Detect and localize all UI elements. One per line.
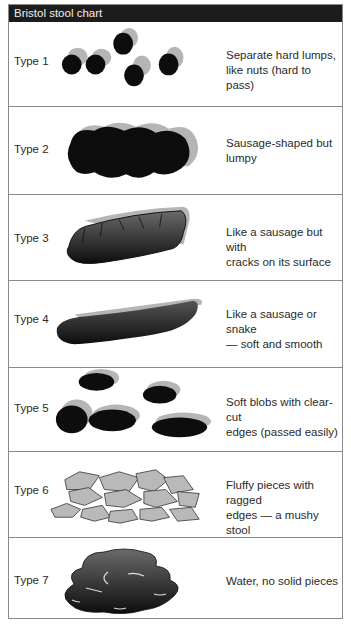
- description-line: Water, no solid pieces: [226, 574, 341, 589]
- description-line: edges (passed easily): [226, 425, 341, 440]
- description-line: Fluffy pieces with ragged: [226, 478, 341, 508]
- description-line: cracks on its surface: [226, 255, 341, 270]
- lumpy-sausage-illustration: [44, 107, 224, 194]
- watery-illustration: [44, 538, 224, 624]
- smooth-snake-illustration: [44, 281, 224, 367]
- chart-row-type-5: Type 5 Soft blobs with clear-cut edges (…: [9, 368, 342, 452]
- description-line: lumpy: [226, 151, 341, 166]
- description-line: Soft blobs with clear-cut: [226, 395, 341, 425]
- bristol-stool-chart: Bristol stool chart Type 1 Separate hard…: [8, 4, 343, 619]
- chart-row-type-1: Type 1 Separate hard lumps, like nuts (h…: [9, 22, 342, 107]
- row-description: Water, no solid pieces: [226, 574, 341, 589]
- description-line: Sausage-shaped but: [226, 136, 341, 151]
- cracked-sausage-illustration: [44, 195, 224, 280]
- description-line: edges — a mushy stool: [226, 508, 341, 538]
- chart-row-type-3: Type 3 Like a sausage but with cracks on…: [9, 195, 342, 281]
- chart-title: Bristol stool chart: [9, 5, 342, 22]
- row-description: Like a sausage but with cracks on its su…: [226, 225, 341, 270]
- chart-row-type-2: Type 2 Sausage-shaped but lumpy: [9, 107, 342, 195]
- chart-row-type-7: Type 7 Water, no solid pieces: [9, 538, 342, 624]
- description-line: Like a sausage or snake: [226, 307, 341, 337]
- row-description: Fluffy pieces with ragged edges — a mush…: [226, 478, 341, 538]
- separate-hard-lumps-illustration: [44, 22, 224, 106]
- fluffy-pieces-illustration: [44, 452, 224, 537]
- row-description: Soft blobs with clear-cut edges (passed …: [226, 395, 341, 440]
- chart-row-type-6: Type 6 Fluffy pieces with ragged edges —…: [9, 452, 342, 538]
- chart-row-type-4: Type 4 Like a sausage or snake — soft an…: [9, 281, 342, 368]
- row-description: Sausage-shaped but lumpy: [226, 136, 341, 166]
- description-line: Separate hard lumps,: [226, 48, 341, 63]
- row-description: Separate hard lumps, like nuts (hard to …: [226, 48, 341, 93]
- description-line: Like a sausage but with: [226, 225, 341, 255]
- soft-blobs-illustration: [44, 368, 224, 451]
- description-line: like nuts (hard to pass): [226, 63, 341, 93]
- row-description: Like a sausage or snake — soft and smoot…: [226, 307, 341, 352]
- description-line: — soft and smooth: [226, 337, 341, 352]
